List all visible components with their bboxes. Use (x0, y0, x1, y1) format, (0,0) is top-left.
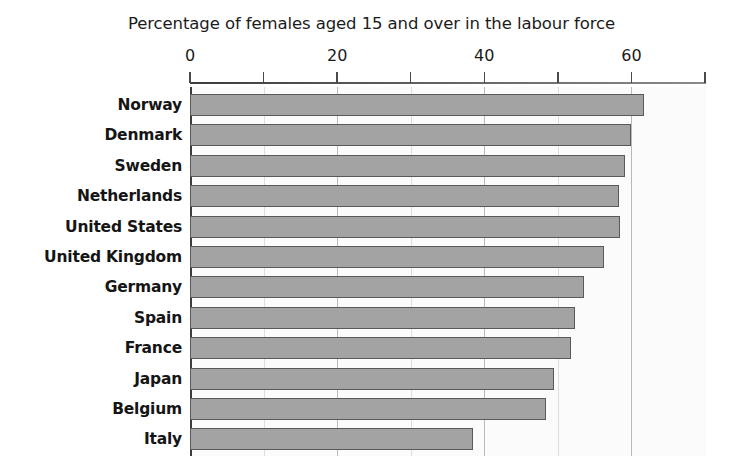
x-axis-tick-label: 40 (474, 46, 494, 65)
x-axis-tick-label: 0 (185, 46, 195, 65)
bar-row: France (0, 330, 743, 360)
x-axis-tick-mark (484, 72, 486, 83)
category-label: Denmark (0, 126, 182, 144)
bar-row: Spain (0, 300, 743, 330)
x-axis-line (190, 82, 706, 84)
bar-row: Italy (0, 421, 743, 451)
bar (190, 368, 554, 390)
bar-row: Germany (0, 269, 743, 299)
bar-row: Sweden (0, 148, 743, 178)
category-label: Germany (0, 278, 182, 296)
category-label: Belgium (0, 400, 182, 418)
x-axis-tick-mark (410, 72, 412, 83)
bar (190, 307, 575, 329)
category-label: France (0, 339, 182, 357)
category-label: Sweden (0, 157, 182, 175)
bar-row: Netherlands (0, 178, 743, 208)
bar-rows: NorwayDenmarkSwedenNetherlandsUnited Sta… (0, 87, 743, 456)
bar-row: Japan (0, 361, 743, 391)
category-label: Italy (0, 430, 182, 448)
bar (190, 428, 473, 450)
bar-chart: Percentage of females aged 15 and over i… (0, 0, 743, 472)
bar (190, 246, 604, 268)
category-label: Spain (0, 309, 182, 327)
x-axis-tick-mark (263, 72, 265, 83)
category-label: United States (0, 218, 182, 236)
category-label: Japan (0, 370, 182, 388)
bar-row: Belgium (0, 391, 743, 421)
bar (190, 124, 631, 146)
bar-row: Norway (0, 87, 743, 117)
bar-row: Denmark (0, 117, 743, 147)
category-label: United Kingdom (0, 248, 182, 266)
x-axis-tick-mark (631, 72, 633, 83)
x-axis-tick-label: 20 (327, 46, 347, 65)
bar (190, 337, 571, 359)
bar-row: United States (0, 209, 743, 239)
category-label: Netherlands (0, 187, 182, 205)
bar (190, 185, 619, 207)
x-axis: 0204060 (0, 46, 743, 86)
bar-row: United Kingdom (0, 239, 743, 269)
x-axis-tick-mark (336, 72, 338, 83)
x-axis-tick-mark (557, 72, 559, 83)
bar (190, 276, 584, 298)
chart-title: Percentage of females aged 15 and over i… (0, 14, 743, 33)
bar (190, 216, 620, 238)
bar (190, 398, 546, 420)
category-label: Norway (0, 96, 182, 114)
bar (190, 94, 644, 116)
bar (190, 155, 625, 177)
x-axis-tick-label: 60 (621, 46, 641, 65)
x-axis-tick-mark (704, 72, 706, 83)
x-axis-tick-mark (189, 72, 191, 83)
